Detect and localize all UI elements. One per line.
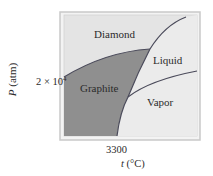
y-axis-label: P (atm) [7,63,18,96]
x-axis-variable: t [121,158,124,169]
region-label-diamond: Diamond [94,29,135,40]
y-tick-mantissa: 2 × 10 [36,76,63,87]
y-tick-label: 2 × 104 [36,77,66,88]
y-axis-variable: P [6,89,18,96]
x-axis-unit: (°C) [127,158,145,169]
region-label-vapor: Vapor [147,97,173,108]
y-tick-exponent: 4 [63,75,67,83]
y-axis-unit: (atm) [6,63,18,87]
phase-diagram: Diamond Graphite Liquid Vapor 2 × 104 P … [0,0,213,176]
region-label-graphite: Graphite [80,83,118,94]
x-axis-label: t (°C) [121,159,145,170]
region-label-liquid: Liquid [153,55,182,66]
x-tick-label: 3300 [106,145,127,156]
